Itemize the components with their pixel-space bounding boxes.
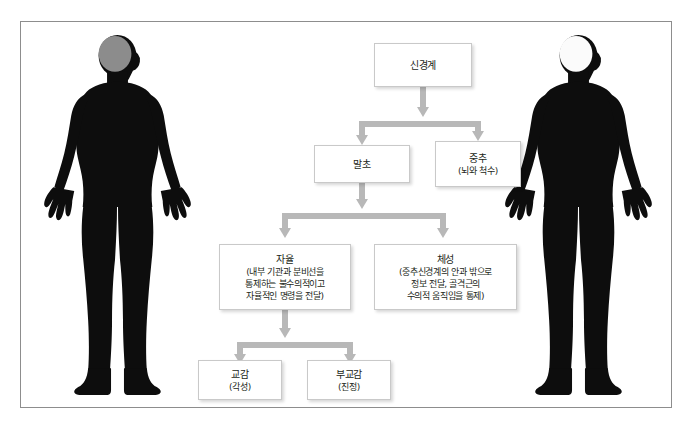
brain-highlight [560, 36, 593, 72]
diagram-frame: 신경계 말초 중추 (뇌와 척수) 자율 (내부 기관과 분비선을통제하는 불수… [20, 21, 672, 408]
node-title: 자율 [276, 253, 294, 266]
node-somatic[interactable]: 체성 (중추신경계의 안과 밖으로정보 전달, 골격근의수의적 움직임을 통제) [374, 244, 517, 310]
node-subtitle: (진정) [338, 381, 360, 393]
node-title: 체성 [437, 253, 455, 266]
node-nervous-system[interactable]: 신경계 [374, 43, 472, 87]
node-title: 중추 [469, 152, 487, 165]
node-parasympathetic[interactable]: 부교감 (진정) [307, 360, 391, 400]
node-subtitle: (내부 기관과 분비선을통제하는 불수의적이고자율적인 명령을 전달) [245, 266, 325, 302]
node-title: 부교감 [336, 368, 362, 381]
node-subtitle: (각성) [229, 381, 251, 393]
node-autonomic[interactable]: 자율 (내부 기관과 분비선을통제하는 불수의적이고자율적인 명령을 전달) [219, 244, 351, 310]
nervous-system-flowchart: 신경계 말초 중추 (뇌와 척수) 자율 (내부 기관과 분비선을통제하는 불수… [181, 22, 521, 409]
node-title: 말초 [353, 158, 371, 171]
node-central[interactable]: 중추 (뇌와 척수) [435, 141, 521, 187]
node-subtitle: (뇌와 척수) [458, 165, 498, 177]
body-silhouette [44, 35, 191, 395]
node-title: 신경계 [410, 59, 436, 72]
node-title: 교감 [231, 368, 249, 381]
node-peripheral[interactable]: 말초 [314, 145, 410, 183]
brain-highlight [99, 36, 132, 72]
body-silhouette [505, 35, 652, 395]
node-subtitle: (중추신경계의 안과 밖으로정보 전달, 골격근의수의적 움직임을 통제) [399, 266, 492, 302]
node-sympathetic[interactable]: 교감 (각성) [198, 360, 282, 400]
peripheral-nervous-system-figure [35, 22, 200, 407]
